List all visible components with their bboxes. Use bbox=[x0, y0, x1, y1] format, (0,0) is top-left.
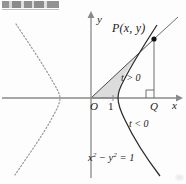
equation-middle: − y bbox=[96, 152, 113, 163]
origin-label: O bbox=[90, 101, 98, 112]
hyperbola-left-branch bbox=[15, 24, 60, 175]
point-P-marker bbox=[151, 36, 156, 41]
point-P-label: P(x, y) bbox=[112, 22, 145, 34]
ray-through-P bbox=[154, 17, 178, 39]
foot-point-Q-label: Q bbox=[150, 101, 158, 112]
hyperbola-equation-label: x2 − y2 = 1 bbox=[88, 153, 134, 164]
x-axis-label: x bbox=[172, 100, 177, 111]
tick-one-label: 1 bbox=[108, 101, 114, 112]
right-angle-marker bbox=[146, 90, 154, 98]
y-axis-label: y bbox=[97, 14, 102, 25]
y-axis-arrow bbox=[88, 11, 95, 18]
equation-tail: = 1 bbox=[117, 152, 135, 163]
figure-page: P(x, y) y x O 1 Q t > 0 t < 0 x2 − y2 = … bbox=[0, 0, 186, 184]
t-negative-label: t < 0 bbox=[129, 119, 149, 129]
page-corner-smudge bbox=[176, 175, 183, 180]
x-axis-arrow bbox=[176, 95, 183, 102]
t-positive-label: t > 0 bbox=[121, 73, 141, 83]
sector-boundary-ray bbox=[91, 39, 154, 98]
